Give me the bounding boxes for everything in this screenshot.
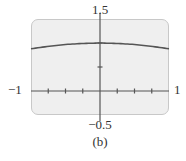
x-axis-max-label: 1 (174, 83, 181, 96)
x-axis-min-label: −1 (8, 83, 22, 96)
y-axis-max-label: 1.5 (92, 3, 108, 16)
figure-caption: (b) (92, 135, 107, 148)
axes (31, 13, 169, 121)
y-axis-min-label: −0.5 (88, 118, 112, 131)
